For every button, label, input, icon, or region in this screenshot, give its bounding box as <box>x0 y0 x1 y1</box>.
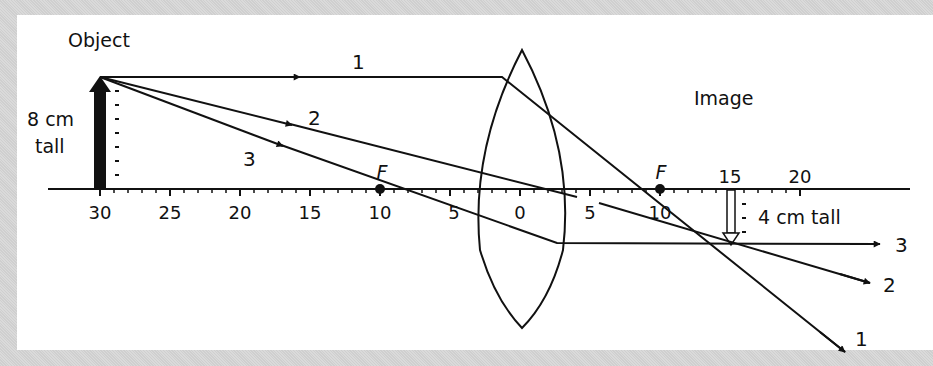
image-height-label: 4 cm tall <box>758 206 841 228</box>
tick-label-10: 10 <box>369 202 392 223</box>
tick-label-0: 0 <box>514 202 525 223</box>
image-scale-marks <box>742 204 746 232</box>
ray-1-label-start: 1 <box>352 50 365 74</box>
tick-label-10-right: 10 <box>649 202 672 223</box>
object-scale-marks <box>115 91 119 175</box>
focal-point-right <box>655 184 665 194</box>
focal-label-left: F <box>377 161 389 183</box>
tick-label-15: 15 <box>299 202 322 223</box>
ray-3-label-start: 3 <box>243 147 256 171</box>
focal-point-left <box>375 184 385 194</box>
object-height-label-line2: tall <box>35 135 65 157</box>
tick-label-5-right: 5 <box>584 202 595 223</box>
ray-2-label-end: 2 <box>883 273 896 297</box>
object-height-label-line1: 8 cm <box>27 108 74 130</box>
tick-label-20-right: 20 <box>789 166 812 187</box>
image-title: Image <box>694 87 754 109</box>
ray-2 <box>100 77 870 283</box>
lens-ray-diagram: 30 25 20 15 10 5 0 5 10 15 20 <box>0 0 933 366</box>
tick-label-25: 25 <box>159 202 182 223</box>
object-arrow <box>89 76 111 189</box>
ray-2-label-start: 2 <box>308 106 321 130</box>
object-title: Object <box>68 29 130 51</box>
ray-3-label-end: 3 <box>895 233 908 257</box>
tick-label-20: 20 <box>229 202 252 223</box>
tick-label-15-right: 15 <box>719 166 742 187</box>
focal-label-right: F <box>656 161 668 183</box>
ray-1-label-end: 1 <box>855 327 868 351</box>
tick-label-30: 30 <box>89 202 112 223</box>
image-arrow <box>723 190 739 245</box>
axis-major-ticks <box>100 189 800 196</box>
